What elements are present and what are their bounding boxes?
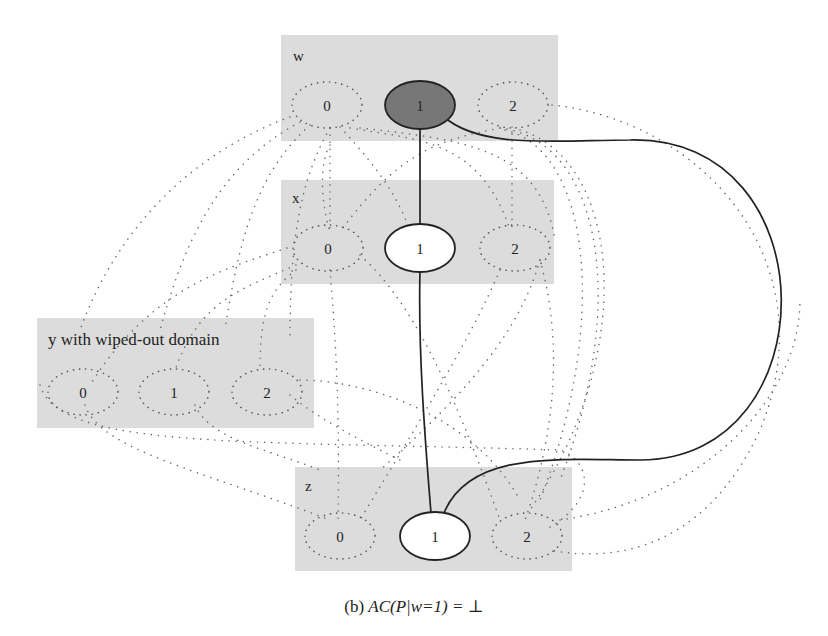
value-label-y0: 0 (79, 385, 87, 401)
value-label-x1: 1 (416, 241, 424, 257)
variable-label-z: z (305, 478, 312, 494)
value-label-x2: 2 (511, 241, 519, 257)
support-edges (420, 116, 782, 513)
value-label-w2: 2 (509, 98, 517, 114)
value-label-x0: 0 (324, 241, 332, 257)
value-label-y1: 1 (170, 385, 178, 401)
value-label-z0: 0 (336, 529, 344, 545)
variable-box-y: y with wiped-out domain (37, 318, 314, 428)
figure-caption: (b) AC(P|w=1) = ⊥ (0, 596, 828, 617)
value-label-w1: 1 (416, 98, 424, 114)
variable-label-x: x (292, 190, 300, 206)
variable-label-y: y with wiped-out domain (48, 330, 220, 349)
value-label-z2: 2 (523, 529, 531, 545)
edge-w1-z1 (443, 116, 781, 513)
value-label-y2: 2 (263, 385, 271, 401)
caption-math: AC(P|w=1) = ⊥ (368, 597, 483, 616)
variable-label-w: w (293, 48, 304, 64)
value-label-w0: 0 (323, 98, 331, 114)
caption-prefix: (b) (344, 597, 364, 616)
constraint-network-diagram: w x y with wiped-out domain z (0, 0, 828, 636)
value-label-z1: 1 (431, 529, 439, 545)
